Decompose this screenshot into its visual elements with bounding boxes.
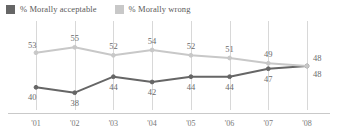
legend-swatch-morally-wrong (115, 5, 124, 14)
line-chart: 40384442444447485355525452514948 '01'02'… (0, 18, 337, 138)
data-point (150, 80, 154, 84)
value-label: 44 (225, 82, 234, 92)
data-point (112, 53, 116, 57)
value-label: 49 (264, 49, 273, 59)
x-tick-label: '01 (31, 119, 40, 128)
value-label: 40 (28, 92, 37, 102)
value-label: 48 (313, 69, 322, 79)
data-point (150, 48, 154, 52)
chart-legend: % Morally acceptable % Morally wrong (0, 0, 337, 18)
x-tick-label: '04 (147, 119, 156, 128)
chart-tick-labels: '01'02'03'04'05'06'07'08 (31, 119, 311, 128)
x-tick-label: '02 (70, 119, 79, 128)
data-point (266, 67, 270, 71)
value-label: 38 (70, 98, 79, 108)
data-point (34, 85, 38, 89)
legend-label-morally-acceptable: % Morally acceptable (20, 4, 97, 14)
chart-value-labels: 40384442444447485355525452514948 (28, 33, 322, 107)
data-point (112, 75, 116, 79)
data-point (305, 64, 309, 68)
value-label: 42 (148, 87, 157, 97)
data-point (266, 61, 270, 65)
data-point (73, 45, 77, 49)
legend-entry-morally-wrong: % Morally wrong (115, 4, 191, 14)
value-label: 52 (187, 41, 196, 51)
value-label: 47 (264, 74, 273, 84)
x-tick-label: '07 (264, 119, 273, 128)
data-point (189, 53, 193, 57)
data-point (34, 51, 38, 55)
x-tick-label: '03 (109, 119, 118, 128)
value-label: 52 (109, 41, 118, 51)
data-point (228, 75, 232, 79)
x-tick-label: '08 (302, 119, 311, 128)
legend-label-morally-wrong: % Morally wrong (129, 4, 191, 14)
value-label: 48 (313, 53, 322, 63)
value-label: 44 (187, 82, 196, 92)
value-label: 55 (70, 33, 79, 43)
legend-entry-morally-acceptable: % Morally acceptable (6, 4, 97, 14)
value-label: 53 (28, 40, 37, 50)
legend-swatch-morally-acceptable (6, 5, 15, 14)
data-point (228, 56, 232, 60)
x-tick-label: '06 (225, 119, 234, 128)
value-label: 54 (148, 36, 157, 46)
chart-canvas: 40384442444447485355525452514948 '01'02'… (0, 18, 337, 138)
data-point (73, 91, 77, 95)
value-label: 51 (225, 44, 234, 54)
value-label: 44 (109, 82, 118, 92)
x-tick-label: '05 (186, 119, 195, 128)
data-point (189, 75, 193, 79)
